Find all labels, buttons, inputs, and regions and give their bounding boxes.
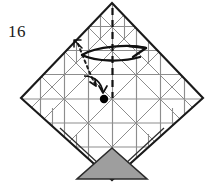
fold-over-arrow-lower-shaft: [82, 55, 140, 61]
upper-left-guide-tick: [74, 40, 82, 48]
fold-over-arrow-head: [129, 46, 146, 57]
reference-point-dot: [100, 95, 108, 103]
origami-diagram: [0, 0, 217, 183]
origami-figure-panel: 16: [0, 0, 217, 183]
